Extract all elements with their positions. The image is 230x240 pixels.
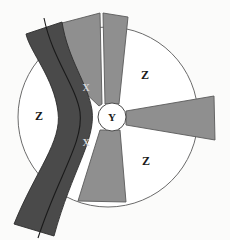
label-hub-y: Y (108, 111, 116, 123)
label-region-left-z: Z (35, 109, 43, 123)
label-band-lower-x: X (82, 137, 90, 148)
label-region-top-right-z: Z (141, 68, 149, 82)
label-band-upper-x: X (82, 82, 90, 93)
diagram-svg: Y X X Z Z Z (0, 0, 230, 240)
diagram-canvas: Y X X Z Z Z (0, 0, 230, 240)
label-region-bottom-right-z: Z (142, 154, 150, 168)
